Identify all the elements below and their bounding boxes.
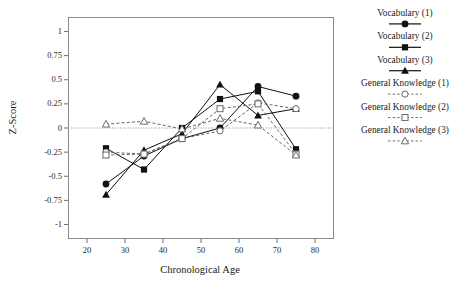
data-point-marker <box>255 88 261 94</box>
legend-label: General Knowledge (1) <box>346 78 464 88</box>
y-tick-label: 1 <box>20 27 62 36</box>
y-tick-label: -0.5 <box>20 172 62 181</box>
data-point-marker <box>255 101 261 107</box>
x-tick-label: 60 <box>227 246 251 255</box>
legend-entry-3[interactable]: General Knowledge (1) <box>346 78 464 99</box>
data-point-marker <box>293 93 300 100</box>
y-tick-label: 0.5 <box>20 75 62 84</box>
axis-tick-marks <box>64 31 315 243</box>
legend-marker-filled-circle-icon <box>346 18 464 29</box>
y-tick-label: -1 <box>20 220 62 229</box>
series-line-0 <box>106 87 296 184</box>
legend-marker-filled-square-icon <box>346 42 464 53</box>
legend-label: General Knowledge (3) <box>346 125 464 135</box>
legend-label: Vocabulary (1) <box>346 8 464 18</box>
data-point-marker <box>217 96 223 102</box>
x-axis-title: Chronological Age <box>110 264 290 275</box>
y-tick-label: 0 <box>20 124 62 133</box>
legend-label: Vocabulary (3) <box>346 55 464 65</box>
series-lines <box>106 85 296 195</box>
data-point-marker <box>141 166 147 172</box>
data-point-marker <box>216 81 224 88</box>
series-line-2 <box>106 85 296 195</box>
data-point-marker <box>216 115 223 122</box>
data-point-marker <box>217 106 223 112</box>
data-point-marker <box>141 151 147 157</box>
legend-entry-5[interactable]: General Knowledge (3) <box>346 125 464 146</box>
legend-entry-4[interactable]: General Knowledge (2) <box>346 102 464 123</box>
y-tick-label: -0.25 <box>20 148 62 157</box>
legend-entry-0[interactable]: Vocabulary (1) <box>346 8 464 29</box>
series-line-5 <box>106 118 296 155</box>
legend-marker-open-circle-icon <box>346 89 464 100</box>
chart-legend: Vocabulary (1)Vocabulary (2)Vocabulary (… <box>346 8 464 148</box>
legend-label: General Knowledge (2) <box>346 102 464 112</box>
y-axis-title: Z-Score <box>7 88 18 148</box>
x-tick-label: 80 <box>303 246 327 255</box>
series-markers <box>102 81 300 198</box>
x-tick-label: 20 <box>75 246 99 255</box>
data-point-marker <box>140 118 147 125</box>
series-line-1 <box>106 91 296 169</box>
legend-entry-2[interactable]: Vocabulary (3) <box>346 55 464 76</box>
legend-marker-open-triangle-icon <box>346 135 464 146</box>
x-tick-label: 70 <box>265 246 289 255</box>
chart-figure: 10.750.50.250-0.25-0.5-0.75-1 2030405060… <box>0 0 464 301</box>
data-point-marker <box>103 181 110 188</box>
data-point-marker <box>217 128 223 134</box>
legend-marker-open-square-icon <box>346 112 464 123</box>
y-tick-label: 0.25 <box>20 99 62 108</box>
y-tick-label: 0.75 <box>20 51 62 60</box>
legend-entry-1[interactable]: Vocabulary (2) <box>346 31 464 52</box>
data-point-marker <box>179 136 185 142</box>
x-tick-label: 30 <box>113 246 137 255</box>
legend-label: Vocabulary (2) <box>346 31 464 41</box>
series-line-4 <box>106 104 296 155</box>
legend-marker-filled-triangle-icon <box>346 65 464 76</box>
x-tick-label: 50 <box>189 246 213 255</box>
data-point-marker <box>103 152 109 158</box>
data-point-marker <box>293 106 299 112</box>
x-tick-label: 40 <box>151 246 175 255</box>
y-tick-label: -0.75 <box>20 196 62 205</box>
